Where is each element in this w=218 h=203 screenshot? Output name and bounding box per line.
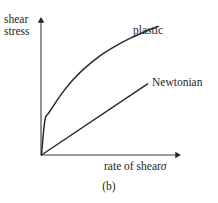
x-axis-label: rate of shearσ (104, 160, 167, 172)
y-axis-label-line2: stress (4, 25, 30, 37)
rheology-figure: shear stress rate of shearσ plastic Newt… (0, 0, 218, 203)
plot-area (0, 0, 218, 203)
x-axis-label-text: rate of shear (104, 160, 161, 172)
plastic-curve (42, 26, 159, 155)
y-axis-label-line1: shear (4, 13, 30, 25)
sigma-symbol: σ (161, 160, 167, 172)
curve-label-newtonian: Newtonian (152, 76, 202, 88)
newtonian-line (42, 84, 148, 155)
figure-caption: (b) (0, 180, 218, 192)
y-axis-label: shear stress (4, 13, 30, 37)
curve-label-plastic: plastic (133, 24, 163, 36)
